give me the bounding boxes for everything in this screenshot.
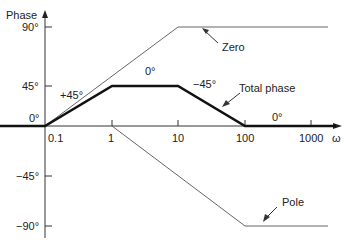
x-tick-10: 10 [172,132,184,144]
zero-label: Zero [222,41,245,53]
y-tick-m45: −45° [16,170,39,182]
flat-end-label: 0° [272,111,283,123]
slope-down-label: −45° [193,78,216,90]
y-tick-0: 0° [29,112,40,124]
y-tick-m90: −90° [16,220,39,232]
y-axis-arrow-icon [42,10,48,18]
x-tick-0.1: 0.1 [48,132,63,144]
pole-curve [112,126,328,226]
bode-phase-diagram: Phase 90° 45° 0° −45° −90° 0.1 1 10 100 … [0,0,344,243]
slope-up-label: +45° [60,89,83,101]
total-pointer-icon [222,100,230,107]
y-axis-label: Phase [6,9,37,21]
x-tick-1: 1 [108,132,114,144]
y-tick-90: 90° [22,21,39,33]
total-phase-label: Total phase [239,82,295,94]
x-axis-label: ω [332,132,341,144]
y-tick-45: 45° [22,80,39,92]
x-tick-1000: 1000 [299,132,323,144]
zero-curve [45,27,328,126]
pole-label: Pole [282,196,304,208]
flat-top-label: 0° [145,65,156,77]
x-tick-100: 100 [236,132,254,144]
